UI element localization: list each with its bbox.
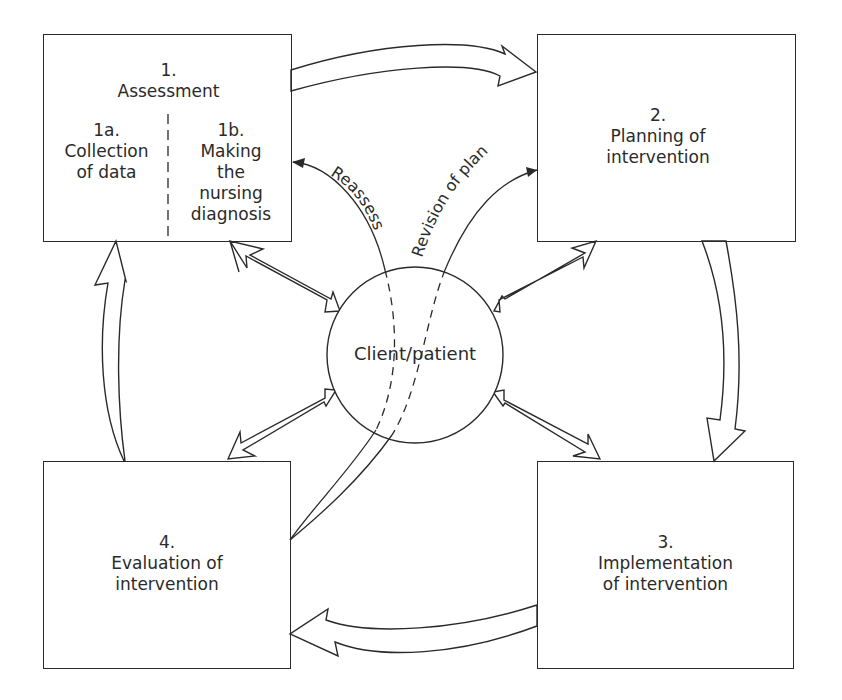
step-line: Implementation: [538, 553, 793, 574]
substep-line: nursing: [169, 183, 293, 204]
substep-line: diagnosis: [169, 204, 293, 225]
step-planning-box: 2. Planning of intervention: [537, 34, 796, 242]
arrow-assessment-to-planning: [291, 45, 536, 91]
step-title: Assessment: [44, 81, 293, 102]
step-evaluation-label: 4. Evaluation of intervention: [44, 532, 290, 595]
double-arrow-client-planning: [494, 241, 596, 312]
substep-line: Collection: [44, 141, 169, 162]
substep-line: Making: [169, 141, 293, 162]
step-assessment-heading: 1. Assessment: [44, 60, 293, 102]
substep-collection-of-data: 1a. Collection of data: [44, 120, 169, 183]
substep-line: the: [169, 162, 293, 183]
substep-number: 1b.: [169, 120, 293, 141]
step-line: of intervention: [538, 574, 793, 595]
step-assessment-box: 1. Assessment 1a. Collection of data 1b.…: [43, 34, 292, 242]
step-planning-label: 2. Planning of intervention: [538, 105, 778, 168]
step-line: intervention: [538, 147, 778, 168]
step-implementation-label: 3. Implementation of intervention: [538, 532, 793, 595]
reassess-curve-lower: [290, 430, 376, 540]
double-arrow-client-assessment: [230, 241, 340, 312]
arrow-evaluation-to-assessment: [95, 241, 126, 461]
step-number: 2.: [538, 105, 778, 126]
double-arrow-client-evaluation: [228, 389, 336, 459]
arrow-planning-to-implementation: [702, 241, 745, 461]
step-implementation-box: 3. Implementation of intervention: [537, 461, 794, 669]
step-line: intervention: [44, 574, 290, 595]
substep-nursing-diagnosis: 1b. Making the nursing diagnosis: [169, 120, 293, 225]
client-patient-label: Client/patient: [327, 343, 503, 364]
step-number: 3.: [538, 532, 793, 553]
revision-curve-lower: [290, 435, 392, 540]
step-number: 1.: [44, 60, 293, 81]
step-line: Planning of: [538, 126, 778, 147]
substep-line: of data: [44, 162, 169, 183]
substep-number: 1a.: [44, 120, 169, 141]
double-arrow-client-implementation: [493, 390, 600, 459]
revision-label: Revision of plan: [408, 141, 492, 259]
step-line: Evaluation of: [44, 553, 290, 574]
step-number: 4.: [44, 532, 290, 553]
reassess-arrowhead: [292, 158, 305, 168]
reassess-label: Reassess: [328, 162, 389, 232]
step-evaluation-box: 4. Evaluation of intervention: [43, 461, 291, 669]
arrow-implementation-to-evaluation: [290, 605, 537, 656]
revision-arrowhead: [526, 167, 537, 177]
